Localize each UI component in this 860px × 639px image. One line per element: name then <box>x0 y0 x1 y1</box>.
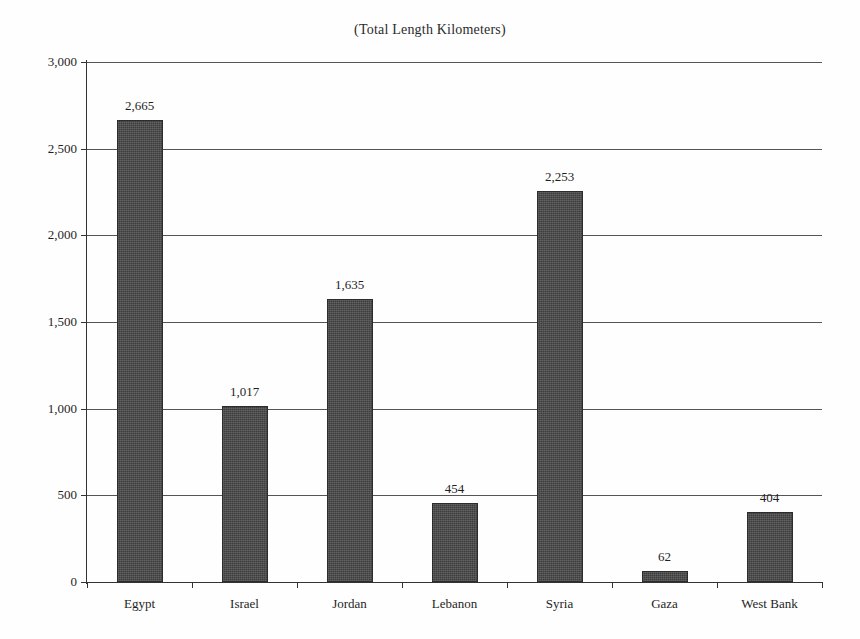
bar-chart-figure: (Total Length Kilometers) 05001,0001,500… <box>0 0 860 639</box>
x-tick-mark <box>192 582 193 588</box>
bar[interactable] <box>222 406 268 582</box>
bar-value-label: 454 <box>445 481 465 497</box>
bar[interactable] <box>327 299 373 582</box>
y-tick-label: 1,500 <box>48 314 77 330</box>
bar-group[interactable]: 1,017Israel <box>192 62 297 582</box>
bar-group[interactable]: 404West Bank <box>717 62 822 582</box>
bar-group[interactable]: 454Lebanon <box>402 62 507 582</box>
x-category-label: Jordan <box>332 596 367 612</box>
bar-value-label: 2,665 <box>125 98 154 114</box>
plot-area: 05001,0001,5002,0002,5003,000 2,665Egypt… <box>87 62 822 582</box>
x-tick-mark <box>87 582 88 588</box>
bar-group[interactable]: 1,635Jordan <box>297 62 402 582</box>
bar[interactable] <box>747 512 793 582</box>
x-tick-mark <box>612 582 613 588</box>
bar-value-label: 1,635 <box>335 277 364 293</box>
x-tick-mark <box>402 582 403 588</box>
x-category-label: Israel <box>230 596 259 612</box>
bar[interactable] <box>432 503 478 582</box>
y-tick-label: 2,000 <box>48 227 77 243</box>
bar[interactable] <box>537 191 583 582</box>
x-category-label: Syria <box>546 596 573 612</box>
chart-title: (Total Length Kilometers) <box>0 22 860 38</box>
x-category-label: West Bank <box>741 596 797 612</box>
bar-group[interactable]: 62Gaza <box>612 62 717 582</box>
x-tick-mark <box>297 582 298 588</box>
bar[interactable] <box>117 120 163 582</box>
x-tick-mark <box>822 582 823 588</box>
y-tick-label: 1,000 <box>48 401 77 417</box>
bar-value-label: 1,017 <box>230 384 259 400</box>
bar-value-label: 2,253 <box>545 169 574 185</box>
bar-value-label: 404 <box>760 490 780 506</box>
x-axis-baseline <box>87 582 822 583</box>
y-tick-label: 500 <box>58 487 78 503</box>
bar-group[interactable]: 2,665Egypt <box>87 62 192 582</box>
x-category-label: Egypt <box>124 596 155 612</box>
y-tick-label: 2,500 <box>48 141 77 157</box>
x-tick-mark <box>507 582 508 588</box>
bar[interactable] <box>642 571 688 582</box>
x-category-label: Gaza <box>651 596 678 612</box>
y-tick-label: 3,000 <box>48 54 77 70</box>
bar-group[interactable]: 2,253Syria <box>507 62 612 582</box>
y-tick-label: 0 <box>71 574 78 590</box>
x-category-label: Lebanon <box>432 596 477 612</box>
bar-value-label: 62 <box>658 549 671 565</box>
x-tick-mark <box>717 582 718 588</box>
